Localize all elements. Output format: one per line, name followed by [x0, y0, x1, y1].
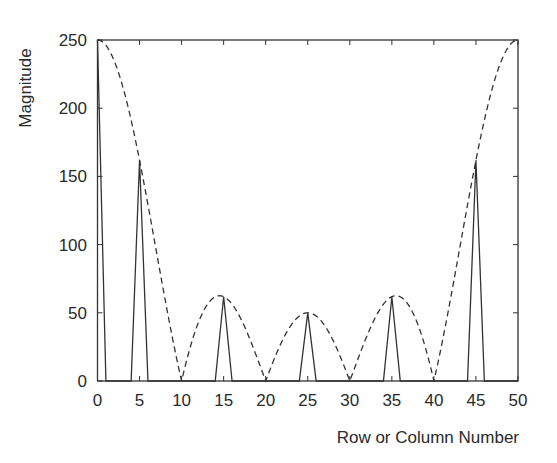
- x-tick-label: 10: [172, 391, 191, 410]
- x-tick-label: 30: [340, 391, 359, 410]
- x-ticks: 05101520253035404550: [93, 40, 528, 410]
- y-ticks: 050100150200250: [59, 31, 518, 391]
- y-tick-label: 50: [68, 304, 87, 323]
- envelope-series: [98, 40, 518, 381]
- y-axis-label: Magnitude: [16, 48, 35, 127]
- x-tick-label: 50: [509, 391, 528, 410]
- x-axis-label: Row or Column Number: [337, 428, 520, 447]
- sampled-line: [98, 40, 519, 381]
- x-tick-label: 25: [298, 391, 317, 410]
- y-tick-label: 100: [59, 236, 87, 255]
- x-tick-label: 45: [466, 391, 485, 410]
- envelope-line: [98, 40, 518, 381]
- x-tick-label: 35: [382, 391, 401, 410]
- plot-frame: [98, 40, 519, 381]
- y-tick-label: 200: [59, 99, 87, 118]
- x-tick-label: 20: [256, 391, 275, 410]
- sampled-series: [98, 40, 519, 381]
- magnitude-chart: 05101520253035404550 050100150200250 Row…: [0, 0, 557, 463]
- x-tick-label: 5: [135, 391, 144, 410]
- x-tick-label: 0: [93, 391, 102, 410]
- y-tick-label: 150: [59, 167, 87, 186]
- y-tick-label: 0: [78, 372, 87, 391]
- x-tick-label: 40: [424, 391, 443, 410]
- y-tick-label: 250: [59, 31, 87, 50]
- x-tick-label: 15: [214, 391, 233, 410]
